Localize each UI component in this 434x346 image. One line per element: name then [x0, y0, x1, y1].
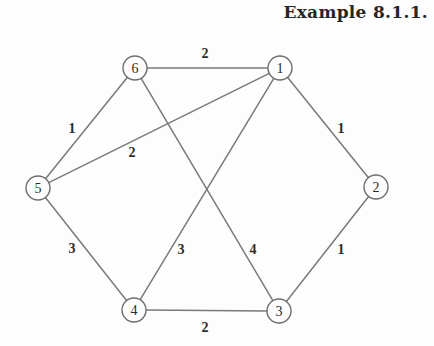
- edge-weight-label-5-4: 3: [69, 241, 76, 256]
- graph-node-4: 4: [122, 298, 146, 322]
- node-label-4: 4: [131, 303, 138, 318]
- graph-node-1: 1: [268, 56, 292, 80]
- graph-edge-5-1: [49, 73, 269, 182]
- figure-page: Example 8.1.1. 212133412 123456: [0, 0, 434, 346]
- edge-weight-label-1-4: 3: [178, 242, 185, 257]
- graph-edge-4-3: [146, 310, 267, 311]
- graph-edge-1-2: [288, 77, 369, 177]
- node-label-1: 1: [277, 61, 284, 76]
- graph-node-3: 3: [267, 299, 291, 323]
- graph-edge-2-3: [286, 196, 368, 301]
- edges-group: [45, 68, 368, 311]
- edge-weight-label-2-3: 1: [338, 242, 345, 257]
- edge-weight-label-1-2: 1: [338, 121, 345, 136]
- graph-edge-5-4: [45, 197, 126, 300]
- edge-weight-label-6-1: 2: [202, 46, 209, 61]
- graph-node-6: 6: [123, 56, 147, 80]
- node-label-5: 5: [35, 181, 42, 196]
- node-label-3: 3: [276, 304, 283, 319]
- edge-weight-label-5-1: 2: [129, 145, 136, 160]
- node-label-2: 2: [373, 180, 380, 195]
- graph-node-5: 5: [26, 176, 50, 200]
- node-label-6: 6: [132, 61, 139, 76]
- graph-node-2: 2: [364, 175, 388, 199]
- edge-weight-label-6-3: 4: [250, 242, 257, 257]
- weighted-graph-diagram: 212133412 123456: [0, 0, 434, 346]
- edge-weight-label-4-3: 2: [202, 320, 209, 335]
- edge-weight-label-6-5: 1: [69, 121, 76, 136]
